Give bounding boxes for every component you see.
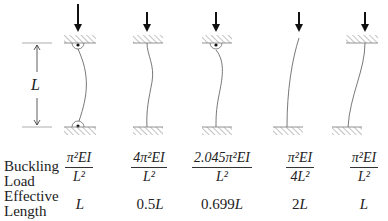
row-label-effective-2: Length [4, 204, 47, 219]
column-pinned-pinned [64, 4, 96, 135]
row-label-buckling-1: Buckling [4, 159, 59, 174]
column-fixed-sway-fixed [332, 12, 378, 135]
effective-length-3: 0.699L [196, 196, 248, 213]
load-formula-3: 2.045π²EIL² [186, 150, 258, 185]
row-label-effective-1: Effective [4, 189, 59, 204]
load-formula-5: π²EIL² [342, 150, 386, 185]
length-label: L [31, 77, 40, 92]
effective-length-1: L [68, 196, 92, 213]
load-formula-4: π²EI4L² [278, 150, 322, 185]
row-label-buckling-2: Load [4, 174, 35, 189]
load-formula-1: π²EIL² [58, 150, 100, 185]
effective-length-4: 2L [284, 196, 316, 213]
effective-length-5: L [352, 196, 376, 213]
load-formula-2: 4π²EIL² [122, 150, 176, 185]
effective-length-2: 0.5L [130, 196, 170, 213]
column-fixed-fixed [133, 12, 163, 135]
column-pinned-fixed [202, 12, 232, 135]
column-free-fixed [273, 12, 303, 135]
